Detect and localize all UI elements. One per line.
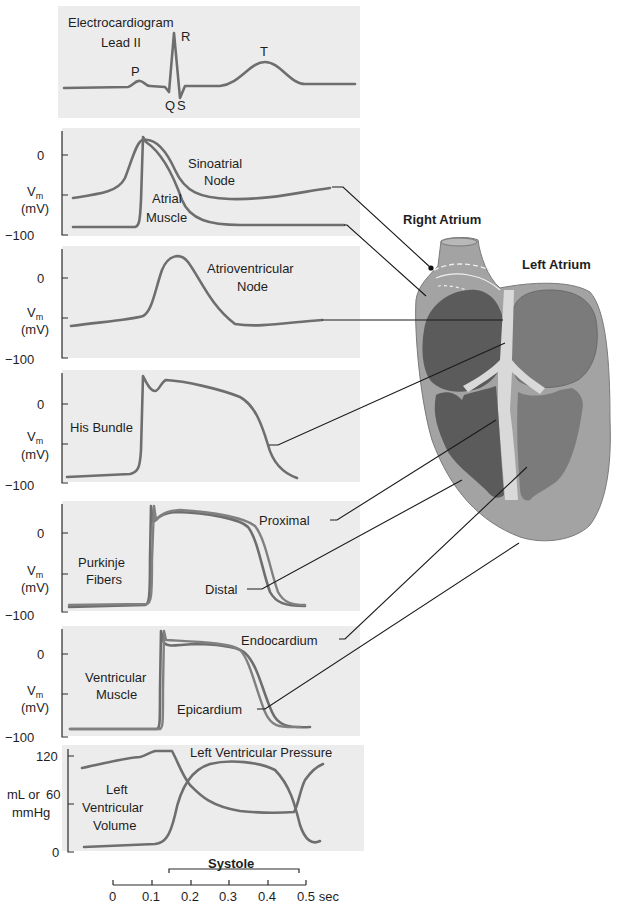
his-bundle-label: His Bundle xyxy=(70,420,133,435)
time-tick-0.5: 0.5 sec xyxy=(297,889,339,904)
time-axis: Systole 0 0.1 0.2 0.3 0.4 0.5 sec xyxy=(109,856,339,904)
ventricular-muscle-label-2: Muscle xyxy=(96,687,137,702)
atrial-muscle-label-2: Muscle xyxy=(146,210,187,225)
left-atrium-label: Left Atrium xyxy=(522,257,591,272)
av-node-y-label: Vm xyxy=(27,305,43,322)
ventricular-tick-minus100: −100 xyxy=(5,730,34,745)
ecg-s-wave-label: S xyxy=(177,98,186,113)
ventricular-muscle-panel: 0 −100 Vm (mV) Ventricular Muscle Endoca… xyxy=(5,626,360,745)
time-tick-0.3: 0.3 xyxy=(219,889,237,904)
epicardium-label: Epicardium xyxy=(177,702,242,717)
purkinje-label-2: Fibers xyxy=(86,572,123,587)
ecg-lead-label: Lead II xyxy=(101,35,141,50)
vena-cava-opening xyxy=(441,238,477,246)
purkinje-label: Purkinje xyxy=(78,555,125,570)
ventricular-y-label: Vm xyxy=(27,683,43,700)
his-bundle-y-label: Vm xyxy=(27,429,43,446)
av-node-y-unit: (mV) xyxy=(21,322,49,337)
purkinje-tick-0: 0 xyxy=(37,526,44,541)
av-node-label: Atrioventricular xyxy=(207,261,294,276)
ecg-title: Electrocardiogram xyxy=(68,15,174,30)
lv-tick-0: 0 xyxy=(52,845,59,860)
proximal-label: Proximal xyxy=(259,513,310,528)
purkinje-panel: 0 −100 Vm (mV) Purkinje Fibers Proximal … xyxy=(5,501,360,623)
time-tick-0.2: 0.2 xyxy=(181,889,199,904)
sa-atrial-tick-0: 0 xyxy=(37,148,44,163)
ecg-p-wave-label: P xyxy=(131,64,140,79)
lv-volume-label-3: Volume xyxy=(93,818,136,833)
lv-y-label-ml: mL or xyxy=(7,787,40,802)
sa-node-label-2: Node xyxy=(204,173,235,188)
lv-y-label-mmhg: mmHg xyxy=(12,805,50,820)
sa-atrial-tick-minus100: −100 xyxy=(5,228,34,243)
sa-atrial-y-label: Vm xyxy=(27,184,43,201)
ecg-t-wave-label: T xyxy=(260,44,268,59)
endocardium-label: Endocardium xyxy=(241,633,318,648)
ventricular-tick-0: 0 xyxy=(37,647,44,662)
lv-panel-background xyxy=(62,745,364,851)
lv-tick-60: 60 xyxy=(46,787,60,802)
ecg-panel: Electrocardiogram Lead II P R Q S T xyxy=(58,6,360,118)
sa-atrial-y-unit: (mV) xyxy=(21,201,49,216)
purkinje-tick-minus100: −100 xyxy=(5,608,34,623)
lv-tick-120: 120 xyxy=(36,749,58,764)
lv-volume-label: Left xyxy=(106,782,128,797)
distal-label: Distal xyxy=(205,582,238,597)
av-node-panel: 0 −100 Vm (mV) Atrioventricular Node xyxy=(5,246,360,367)
lv-pressure-volume-panel: 120 60 0 mL or mmHg Left Ventricular Pre… xyxy=(7,745,364,860)
sa-atrial-panel: 0 −100 Vm (mV) Sinoatrial Node Atrial Mu… xyxy=(5,128,360,243)
ventricular-muscle-label: Ventricular xyxy=(85,670,147,685)
sa-node-dot xyxy=(428,265,433,270)
lv-pressure-label: Left Ventricular Pressure xyxy=(190,745,332,760)
av-node-tick-0: 0 xyxy=(37,271,44,286)
purkinje-y-label: Vm xyxy=(27,563,43,580)
systole-bracket xyxy=(169,869,299,873)
time-axis-line xyxy=(113,880,306,885)
av-node-tick-minus100: −100 xyxy=(5,352,34,367)
time-tick-0.1: 0.1 xyxy=(142,889,160,904)
atrial-muscle-label: Atrial xyxy=(152,191,182,206)
ecg-r-wave-label: R xyxy=(181,29,190,44)
time-tick-0: 0 xyxy=(109,889,116,904)
cardiac-action-potential-figure: Electrocardiogram Lead II P R Q S T 0 −1… xyxy=(0,0,618,909)
heart-illustration: Right Atrium Left Atrium xyxy=(403,212,610,541)
lv-volume-label-2: Ventricular xyxy=(82,800,144,815)
av-node-label-2: Node xyxy=(237,279,268,294)
purkinje-y-unit: (mV) xyxy=(21,580,49,595)
ventricular-y-unit: (mV) xyxy=(21,700,49,715)
right-atrium-label: Right Atrium xyxy=(403,212,481,227)
his-bundle-y-unit: (mV) xyxy=(21,447,49,462)
his-bundle-tick-minus100: −100 xyxy=(5,478,34,493)
sa-node-label: Sinoatrial xyxy=(188,156,242,171)
his-bundle-tick-0: 0 xyxy=(37,397,44,412)
time-tick-0.4: 0.4 xyxy=(258,889,276,904)
ecg-q-wave-label: Q xyxy=(165,98,175,113)
